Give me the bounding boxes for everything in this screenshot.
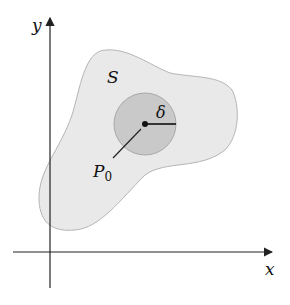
region-label: S <box>107 67 119 87</box>
y-axis-label: y <box>31 15 42 35</box>
x-axis-label: x <box>265 259 275 279</box>
point-label-main: P <box>92 161 105 181</box>
diagram: y x S δ P0 <box>0 0 290 305</box>
point-label-subscript: 0 <box>104 170 112 184</box>
center-point <box>142 121 148 127</box>
radius-label: δ <box>156 103 166 122</box>
diagram-svg: y x S δ P0 <box>0 0 290 305</box>
